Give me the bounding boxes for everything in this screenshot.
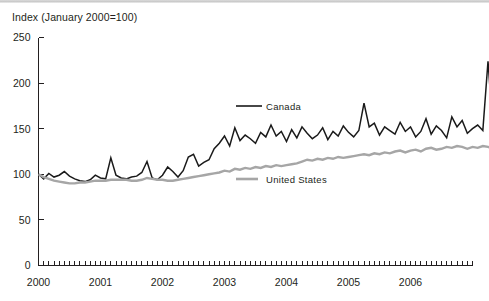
x-tick-label: 2001 <box>89 276 113 288</box>
y-tick-label: 0 <box>25 259 31 271</box>
y-tick-label: 250 <box>13 31 31 43</box>
x-tick-label: 2005 <box>337 276 361 288</box>
x-tick-label: 2000 <box>27 276 51 288</box>
y-axis: 050100150200250 <box>13 31 44 271</box>
x-tick-label: 2004 <box>275 276 299 288</box>
series-lines <box>39 61 489 183</box>
legend-label-united-states: United States <box>266 174 327 185</box>
y-tick-label: 100 <box>13 168 31 180</box>
y-tick-label: 50 <box>19 214 31 226</box>
legend-label-canada: Canada <box>266 101 301 112</box>
y-tick-label: 150 <box>13 123 31 135</box>
chart-legend: CanadaUnited States <box>236 101 327 185</box>
x-tick-label: 2006 <box>399 276 423 288</box>
chart-figure: Index (January 2000=100) 050100150200250… <box>0 0 489 301</box>
chart-plot-area: 050100150200250 200020012002200320042005… <box>0 0 489 301</box>
x-tick-label: 2003 <box>213 276 237 288</box>
series-line-canada <box>39 61 489 181</box>
x-tick-label: 2002 <box>151 276 175 288</box>
x-axis: 2000200120022003200420052006 <box>27 261 473 288</box>
y-tick-label: 200 <box>13 77 31 89</box>
